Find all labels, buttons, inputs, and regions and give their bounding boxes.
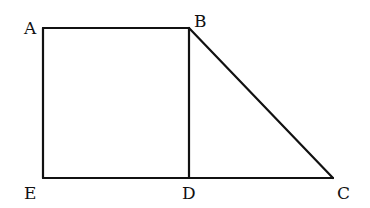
label-a: A (23, 18, 37, 38)
segment-bc (189, 28, 333, 178)
label-d: D (182, 183, 196, 203)
label-c: C (337, 183, 350, 203)
label-e: E (24, 183, 36, 203)
geometry-diagram: A B E D C (0, 0, 370, 208)
label-b: B (194, 11, 207, 31)
